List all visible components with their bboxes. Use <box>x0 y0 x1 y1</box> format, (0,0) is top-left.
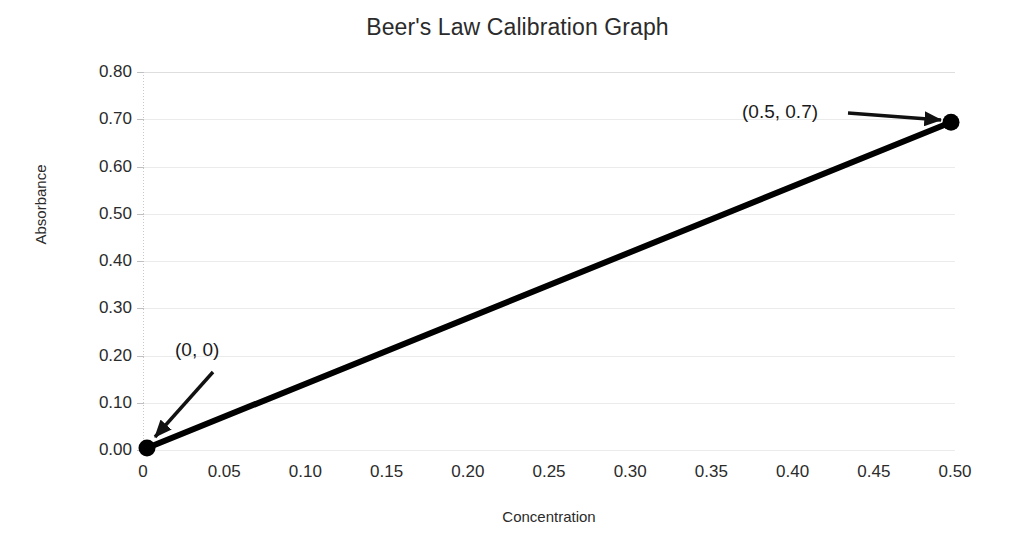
annotation-label-endpoint: (0.5, 0.7) <box>742 101 818 123</box>
calibration-line <box>147 122 951 448</box>
annotation-label-origin: (0, 0) <box>175 339 219 361</box>
annotation-arrow-endpoint <box>848 113 941 120</box>
data-point-marker-origin <box>139 440 156 457</box>
chart-figure: Beer's Law Calibration Graph Absorbance … <box>0 0 1035 557</box>
data-point-marker-endpoint <box>943 114 960 131</box>
data-layer <box>0 0 1035 557</box>
